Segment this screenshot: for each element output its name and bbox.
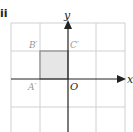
y-axis-label: y	[63, 9, 71, 22]
coordinate-grid: x y O A′ B′ C′	[0, 0, 133, 132]
x-axis-label: x	[127, 73, 133, 86]
point-c-label: C′	[70, 40, 79, 50]
origin-label: O	[70, 81, 78, 92]
point-b-label: B′	[28, 40, 38, 50]
shaded-square	[40, 51, 68, 79]
point-a-label: A′	[27, 82, 37, 92]
